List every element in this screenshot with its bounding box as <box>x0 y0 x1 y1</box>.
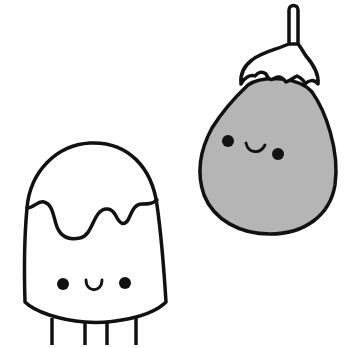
popsicle-left-eye <box>57 278 69 290</box>
eggplant-right-eye <box>272 148 284 160</box>
eggplant-body <box>200 79 336 234</box>
eggplant-character <box>200 6 336 235</box>
eggplant-stem <box>289 6 298 47</box>
eggplant-left-eye <box>222 135 234 147</box>
illustration-canvas <box>0 0 359 348</box>
popsicle-right-eye <box>119 277 131 289</box>
kawaii-illustration <box>0 0 359 348</box>
popsicle-body <box>24 143 166 322</box>
eggplant-cap <box>241 44 318 84</box>
popsicle-character <box>24 143 166 345</box>
